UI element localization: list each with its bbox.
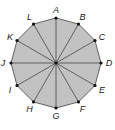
vertex-label-g: G: [52, 111, 59, 121]
vertex-c: [93, 39, 96, 42]
vertex-label-f: F: [80, 104, 86, 114]
vertex-label-i: I: [9, 85, 12, 95]
vertex-i: [15, 84, 18, 87]
dodecagon-diagram: ABCDEFGHIJKL: [0, 0, 115, 130]
vertex-label-k: K: [7, 32, 14, 42]
vertex-k: [15, 39, 18, 42]
vertex-g: [54, 106, 57, 109]
vertex-h: [32, 100, 35, 103]
vertex-label-e: E: [99, 85, 106, 95]
vertex-label-b: B: [79, 12, 85, 22]
vertex-label-a: A: [52, 5, 59, 15]
vertex-label-l: L: [27, 12, 32, 22]
vertex-e: [93, 84, 96, 87]
vertex-label-j: J: [0, 58, 6, 68]
vertex-l: [32, 22, 35, 25]
center-point: [54, 61, 57, 64]
vertex-label-h: H: [26, 104, 33, 114]
vertex-label-d: D: [106, 58, 113, 68]
vertex-b: [77, 22, 80, 25]
vertex-label-c: C: [99, 32, 106, 42]
vertex-d: [99, 61, 102, 64]
vertex-f: [77, 100, 80, 103]
vertex-a: [54, 16, 57, 19]
vertex-j: [9, 61, 12, 64]
